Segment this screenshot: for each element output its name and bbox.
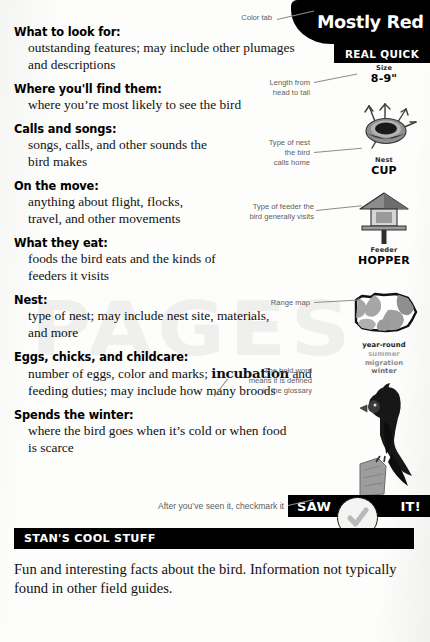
feeder-caption: Feeder (338, 246, 430, 254)
real-quick-label: REAL QUICK (345, 48, 419, 60)
legend-migration: migration (338, 359, 430, 368)
feeder-value: HOPPER (338, 254, 430, 267)
legend-summer: summer (338, 350, 430, 359)
callout-feeder: Type of feeder the bird generally visits (218, 202, 314, 222)
entry-body: anything about flight, flocks, travel, a… (14, 194, 214, 227)
saw-it-right-label: IT! (400, 499, 421, 514)
entry-body: where the bird goes when it’s cold or wh… (14, 423, 294, 456)
stans-cool-stuff-label: STAN'S COOL STUFF (24, 532, 156, 545)
entry-heading: Spends the winter: (14, 409, 314, 422)
size-caption: Size (338, 64, 430, 72)
entry-body: outstanding features; may include other … (14, 40, 314, 73)
entry-spends-the-winter: Spends the winter: where the bird goes w… (14, 409, 314, 456)
entry-heading: What to look for: (14, 26, 314, 39)
legend-year-round: year-round (338, 341, 430, 350)
stans-cool-stuff-body: Fun and interesting facts about the bird… (14, 560, 418, 597)
cup-nest-icon (338, 98, 430, 156)
entry-body: where you’re most likely to see the bird (14, 97, 314, 114)
entry-heading: On the move: (14, 180, 314, 193)
callout-color-tab: Color tab (196, 13, 272, 23)
cardinal-bird-icon (340, 382, 430, 500)
checkmark-glyph (345, 505, 371, 531)
real-quick-banner: REAL QUICK (334, 44, 430, 63)
entry-what-to-look-for: What to look for: outstanding features; … (14, 26, 314, 73)
nest-value: CUP (338, 164, 430, 177)
callout-nest: Type of nest the bird calls home (222, 138, 310, 168)
rail-block-feeder: Feeder HOPPER (338, 188, 430, 267)
callout-range-map: Range map (244, 298, 310, 308)
range-map-icon (338, 286, 430, 341)
entry-body-pre: number of eggs, color and marks; (28, 366, 211, 381)
entry-heading: Calls and songs: (14, 123, 314, 136)
entry-body: foods the bird eats and the kinds of fee… (14, 251, 242, 284)
rail-block-nest: Nest CUP (338, 98, 430, 177)
entry-body: type of nest; may include nest site, mat… (14, 308, 282, 341)
stans-cool-stuff-banner: STAN'S COOL STUFF (14, 528, 414, 549)
callout-size: Length from head to tail (232, 78, 310, 98)
entry-what-they-eat: What they eat: foods the bird eats and t… (14, 237, 314, 284)
field-guide-page: PAGES What to look for: outstanding feat… (0, 0, 430, 642)
entry-body: songs, calls, and other sounds the bird … (14, 137, 224, 170)
entry-heading: What they eat: (14, 237, 314, 250)
hopper-feeder-icon (338, 188, 430, 246)
color-tab[interactable]: Mostly Red (291, 0, 430, 44)
color-tab-label: Mostly Red (317, 12, 424, 32)
entry-heading: Eggs, chicks, and childcare: (14, 351, 314, 364)
callout-saw-it: After you’ve seen it, checkmark it (152, 501, 284, 512)
callout-glossary: The bold word means it is defined in the… (216, 366, 312, 396)
legend-winter: winter (338, 367, 430, 376)
nest-caption: Nest (338, 156, 430, 164)
